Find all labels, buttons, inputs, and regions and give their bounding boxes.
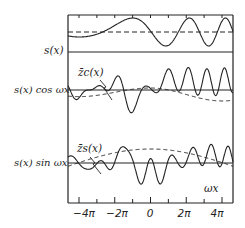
x-tick-2pi: 2π xyxy=(177,207,190,219)
x-tick-4pi: 4π xyxy=(210,207,223,219)
panel1-label: s(x) xyxy=(44,44,64,56)
zs-annotation: z̄s(x) xyxy=(77,142,102,154)
plot-frame xyxy=(68,15,233,203)
zc-annotation: z̄c(x) xyxy=(78,66,104,78)
x-tick-minus-2pi: −2π xyxy=(106,207,128,219)
x-tick-minus-4pi: −4π xyxy=(73,207,95,219)
panel3-label: s(x) sin ωx xyxy=(14,157,68,168)
panel2-label: s(x) cos ωx xyxy=(14,84,69,95)
x-tick-0: 0 xyxy=(147,207,154,219)
omega-x-label: ωx xyxy=(204,182,218,194)
